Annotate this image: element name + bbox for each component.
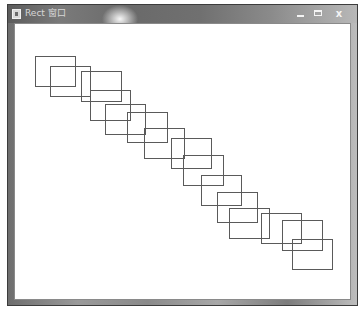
maximize-icon [314, 10, 322, 16]
app-icon[interactable] [12, 9, 21, 19]
rectangle-shape [106, 105, 146, 135]
rectangle-shape [218, 193, 258, 223]
rectangle-shape [184, 156, 224, 186]
rectangle-shape [128, 113, 168, 143]
app-window: Rect 窗口 x [7, 4, 358, 306]
rectangle-shape [283, 221, 323, 251]
close-button[interactable]: x [328, 7, 350, 20]
rectangles-canvas [15, 24, 350, 299]
window-title: Rect 窗口 [25, 8, 66, 19]
drawing-area[interactable] [14, 23, 351, 300]
rectangle-shape [172, 139, 212, 169]
rectangle-shape [145, 129, 185, 159]
minimize-button[interactable] [292, 7, 309, 20]
close-icon: x [328, 7, 350, 20]
minimize-icon [297, 15, 304, 17]
rectangle-shape [202, 176, 242, 206]
rectangle-shape [36, 57, 76, 87]
title-bar[interactable]: Rect 窗口 x [8, 5, 357, 23]
maximize-button[interactable] [310, 7, 327, 20]
rectangle-shape [91, 91, 131, 121]
